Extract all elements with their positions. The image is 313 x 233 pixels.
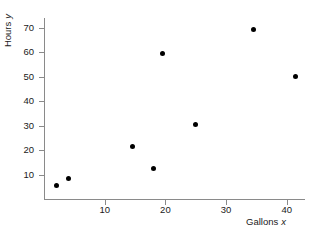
- data-point: [251, 27, 256, 32]
- data-point: [130, 144, 135, 149]
- data-point: [160, 51, 165, 56]
- x-tick-label: 30: [221, 205, 232, 215]
- y-axis-title: Hoursy: [2, 0, 13, 14]
- plot-area: [44, 18, 305, 199]
- y-tick-label: 30: [23, 121, 34, 131]
- y-tick-label: 40: [23, 96, 34, 106]
- x-axis-title-text: Gallons: [246, 216, 278, 227]
- x-axis-title: Gallonsx: [246, 216, 286, 227]
- x-tick-label: 40: [281, 205, 292, 215]
- x-axis-line: [44, 199, 305, 200]
- y-tick-label: 70: [23, 23, 34, 33]
- y-tick-label: 10: [23, 170, 34, 180]
- y-tick-label: 50: [23, 72, 34, 82]
- data-point: [54, 183, 59, 188]
- x-axis-title-symbol: x: [278, 216, 286, 227]
- data-point: [66, 176, 71, 181]
- x-tick-label: 10: [99, 205, 110, 215]
- data-point: [151, 166, 156, 171]
- y-tick-label: 60: [23, 47, 34, 57]
- data-point: [193, 122, 198, 127]
- y-tick-label: 20: [23, 145, 34, 155]
- y-axis-title-symbol: y: [2, 14, 13, 22]
- x-tick-label: 20: [160, 205, 171, 215]
- scatter-plot: 10203040506070 10203040 Hoursy Gallonsx: [0, 0, 313, 233]
- y-axis-title-text: Hours: [2, 22, 13, 47]
- data-point: [293, 74, 298, 79]
